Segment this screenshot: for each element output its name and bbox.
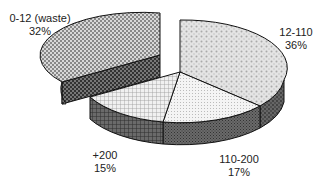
label-110-200-name: 110-200 bbox=[214, 153, 264, 166]
label-plus-200-name: +200 bbox=[88, 149, 122, 162]
label-plus-200: +200 15% bbox=[88, 149, 122, 175]
label-12-110-name: 12-110 bbox=[276, 26, 316, 39]
label-110-200-pct: 17% bbox=[214, 166, 264, 179]
label-plus-200-pct: 15% bbox=[88, 162, 122, 175]
label-waste-name: 0-12 (waste) bbox=[4, 12, 76, 25]
label-12-110-pct: 36% bbox=[276, 39, 316, 52]
label-110-200: 110-200 17% bbox=[214, 153, 264, 179]
label-12-110: 12-110 36% bbox=[276, 26, 316, 52]
label-waste: 0-12 (waste) 32% bbox=[4, 12, 76, 38]
label-waste-pct: 32% bbox=[4, 25, 76, 38]
